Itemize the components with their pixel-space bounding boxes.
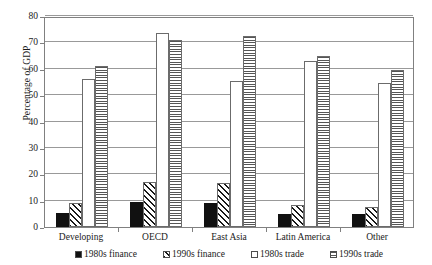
bar (365, 207, 378, 227)
bar-chart: Percentage of GDP 01020304050607080 Deve… (0, 0, 432, 265)
legend-item[interactable]: 1990s finance (163, 249, 225, 259)
bar (82, 79, 95, 227)
x-tick-mark (192, 228, 193, 232)
y-tick-label-20: 20 (2, 170, 38, 180)
bar (243, 36, 256, 227)
y-tick-label-0: 0 (2, 223, 38, 233)
y-tick-label-80: 80 (2, 12, 38, 22)
legend-label: 1990s finance (172, 249, 225, 259)
bar (156, 33, 169, 227)
legend-swatch-icon (163, 251, 170, 258)
y-tick-mark-0 (40, 228, 44, 229)
bar-stack (267, 18, 341, 227)
x-label-latin-america: Latin America (276, 231, 331, 243)
y-tick-label-70: 70 (2, 38, 38, 48)
bar-group (267, 18, 341, 227)
bar (230, 81, 243, 227)
bar (130, 202, 143, 227)
bar-stack (119, 18, 193, 227)
legend-swatch-icon (251, 251, 258, 258)
bar (204, 203, 217, 227)
legend-label: 1990s trade (339, 249, 383, 259)
bar (143, 182, 156, 227)
bar (56, 213, 69, 228)
bar-group (193, 18, 267, 227)
bar-group (341, 18, 415, 227)
x-label-developing: Developing (59, 231, 103, 243)
x-tick-mark (118, 228, 119, 232)
bar-stack (341, 18, 415, 227)
x-label-east-asia: East Asia (211, 231, 247, 243)
bar (95, 66, 108, 227)
bar (291, 205, 304, 227)
x-tick-mark (340, 228, 341, 232)
legend-swatch-icon (330, 251, 337, 258)
bar (217, 183, 230, 227)
legend-label: 1980s trade (260, 249, 304, 259)
y-tick-label-10: 10 (2, 197, 38, 207)
legend-label: 1980s finance (84, 249, 137, 259)
bar (278, 214, 291, 227)
bar (304, 61, 317, 227)
legend-swatch-icon (75, 251, 82, 258)
bar-group (119, 18, 193, 227)
plot-area (44, 17, 414, 228)
y-tick-label-30: 30 (2, 144, 38, 154)
legend-item[interactable]: 1990s trade (330, 249, 383, 259)
x-tick-mark (266, 228, 267, 232)
bar (317, 56, 330, 227)
bar (378, 83, 391, 227)
chart-legend: 1980s finance1990s finance1980s trade199… (44, 249, 414, 259)
bar (69, 203, 82, 227)
x-label-other: Other (366, 231, 388, 243)
y-tick-label-60: 60 (2, 65, 38, 75)
bar-group (45, 18, 119, 227)
x-label-oecd: OECD (142, 231, 168, 243)
legend-item[interactable]: 1980s finance (75, 249, 137, 259)
gridline-80 (45, 15, 413, 16)
y-axis-title: Percentage of GDP (22, 8, 32, 158)
y-tick-label-50: 50 (2, 91, 38, 101)
legend-item[interactable]: 1980s trade (251, 249, 304, 259)
bar-stack (45, 18, 119, 227)
bar (352, 214, 365, 227)
y-tick-label-40: 40 (2, 118, 38, 128)
bar (391, 70, 404, 227)
bar (169, 40, 182, 227)
bar-stack (193, 18, 267, 227)
